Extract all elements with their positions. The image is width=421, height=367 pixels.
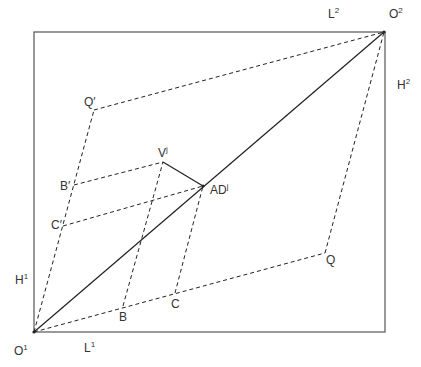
label-c-prime: C′ bbox=[51, 219, 62, 231]
label-b-prime: B′ bbox=[60, 180, 70, 192]
label-l1: L1 bbox=[84, 342, 95, 354]
line-cp-ad bbox=[63, 186, 203, 226]
label-c: C bbox=[171, 298, 180, 310]
diagonal-line bbox=[34, 32, 384, 332]
label-l2: L2 bbox=[328, 8, 339, 20]
label-h1: H1 bbox=[15, 274, 28, 286]
point-o2 bbox=[382, 30, 385, 33]
line-q-o2 bbox=[325, 32, 384, 253]
label-o1: O1 bbox=[14, 345, 28, 357]
label-q: Q bbox=[326, 254, 335, 266]
label-v: Vj bbox=[158, 147, 168, 159]
line-b-v bbox=[123, 162, 163, 306]
label-ad: ADj bbox=[210, 184, 228, 196]
line-o1-qp bbox=[34, 110, 94, 332]
line-o1-q bbox=[34, 253, 325, 332]
line-v-ad bbox=[163, 162, 203, 186]
label-q-prime: Q′ bbox=[84, 96, 96, 108]
point-o1 bbox=[32, 330, 35, 333]
line-bp-v bbox=[74, 162, 163, 185]
point-ad bbox=[201, 184, 204, 187]
line-qp-o2 bbox=[94, 32, 384, 110]
line-c-ad bbox=[175, 186, 203, 293]
label-b: B bbox=[119, 311, 127, 323]
label-h2: H2 bbox=[397, 79, 410, 91]
label-o2: O2 bbox=[389, 8, 403, 20]
